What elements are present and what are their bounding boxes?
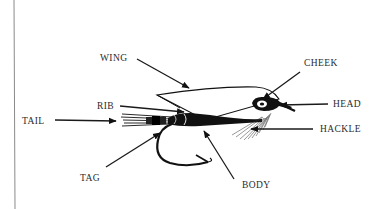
- fly-illustration: [121, 87, 295, 165]
- label-head-group: HEAD: [280, 99, 361, 109]
- tag-arrow: [106, 133, 160, 167]
- hook: [157, 124, 208, 165]
- label-tag-group: TAG: [80, 133, 160, 183]
- body-arrow: [204, 131, 234, 179]
- page-margin-rule: [14, 0, 15, 209]
- head-arrow: [280, 104, 328, 105]
- label-cheek: CHEEK: [304, 58, 338, 68]
- fly-anatomy-diagram: WING CHEEK HEAD HACKLE RIB TAIL TAG BODY: [0, 0, 388, 209]
- label-hackle-group: HACKLE: [251, 124, 361, 134]
- label-tail-group: TAIL: [22, 116, 116, 126]
- wing-arrow: [137, 59, 189, 88]
- label-tail: TAIL: [22, 116, 44, 126]
- label-wing: WING: [100, 53, 127, 63]
- label-body-group: BODY: [204, 131, 271, 190]
- label-wing-group: WING: [100, 53, 189, 88]
- label-body: BODY: [242, 180, 271, 190]
- label-hackle: HACKLE: [320, 124, 361, 134]
- rib-leader: [120, 106, 184, 112]
- label-rib: RIB: [97, 101, 114, 111]
- cheek-arrow: [263, 72, 300, 99]
- hackle-fibers: [232, 113, 271, 140]
- tail-arrow: [55, 120, 116, 121]
- label-tag: TAG: [80, 173, 100, 183]
- label-head: HEAD: [333, 99, 361, 109]
